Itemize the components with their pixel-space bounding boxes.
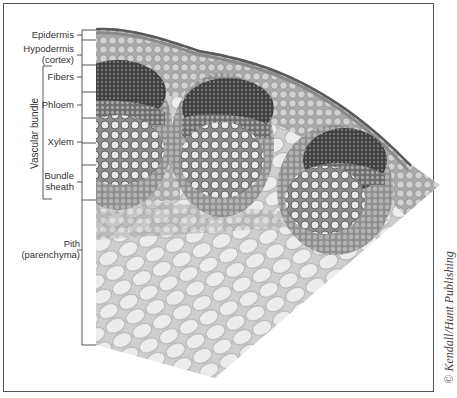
vascular-bundle-1: [63, 60, 173, 210]
label-bundle-sheath-line2: sheath: [44, 182, 74, 193]
vascular-bundle-3: [277, 125, 393, 255]
label-bundle-sheath: Bundle sheath: [44, 171, 74, 192]
publisher-credit: © Kendall/Hunt Publishing: [442, 243, 457, 393]
label-pith: Pith (parenchyma): [21, 239, 80, 260]
label-hypodermis: Hypodermis (cortex): [23, 44, 74, 65]
label-pith-line1: Pith: [21, 239, 80, 250]
label-epidermis: Epidermis: [32, 30, 74, 41]
label-xylem: Xylem: [48, 137, 74, 148]
label-vascular-bundle: Vascular bundle: [29, 94, 40, 174]
label-hypodermis-line2: (cortex): [23, 55, 74, 66]
label-fibers: Fibers: [48, 72, 74, 83]
label-bundle-sheath-line1: Bundle: [44, 171, 74, 182]
vascular-bundle-2: [170, 73, 274, 217]
label-phloem: Phloem: [42, 100, 74, 111]
label-hypodermis-line1: Hypodermis: [23, 44, 74, 55]
label-pith-line2: (parenchyma): [21, 250, 80, 261]
